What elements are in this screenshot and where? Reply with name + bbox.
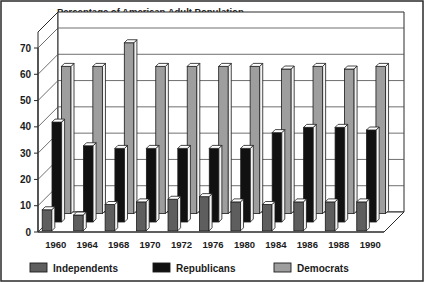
bar-front-face (262, 205, 272, 231)
bar-independents-1970[interactable] (137, 199, 150, 231)
x-axis-label-1976: 1976 (202, 239, 223, 250)
legend-item-democrats[interactable]: Democrats (274, 263, 349, 274)
bar-side-face (241, 199, 244, 231)
legend-swatch (30, 263, 47, 272)
x-axis-label-1968: 1968 (108, 239, 129, 250)
bar-front-face (168, 199, 178, 231)
y-axis-label: 20 (20, 174, 32, 185)
bar-side-face (282, 130, 285, 222)
x-axis-label-1990: 1990 (360, 239, 381, 250)
bar-independents-1980[interactable] (231, 199, 244, 231)
bar-side-face (197, 63, 200, 213)
x-axis-label-1964: 1964 (77, 239, 99, 250)
bar-independents-1976[interactable] (199, 194, 212, 231)
bar-front-face (294, 202, 304, 231)
bar-side-face (354, 66, 357, 214)
bar-front-face (325, 202, 335, 231)
bar-side-face (71, 63, 74, 213)
bar-front-face (199, 197, 209, 231)
bar-front-face (74, 215, 84, 231)
bar-side-face (52, 207, 55, 231)
bar-side-face (178, 196, 181, 231)
y-axis-label: 0 (25, 227, 31, 238)
bar-side-face (102, 63, 105, 213)
bar-side-face (187, 145, 190, 222)
bar-front-face (231, 202, 241, 231)
bar-front-face (357, 202, 367, 231)
bar-side-face (376, 127, 379, 222)
bar-side-face (303, 199, 306, 231)
bar-side-face (219, 145, 222, 222)
bar-side-face (125, 145, 128, 222)
x-axis-label-1972: 1972 (171, 239, 192, 250)
bar-side-face (345, 124, 348, 222)
legend-swatch (153, 263, 170, 272)
bar-side-face (260, 63, 263, 213)
bar-side-face (323, 63, 326, 213)
bar-independents-1990[interactable] (357, 199, 370, 231)
bar-side-face (93, 143, 96, 222)
bar-side-face (386, 63, 389, 213)
y-axis-label: 60 (20, 69, 32, 80)
bar-independents-1972[interactable] (168, 196, 181, 231)
bar-front-face (42, 210, 52, 231)
bar-side-face (366, 199, 369, 231)
bar-side-face (165, 63, 168, 213)
x-axis-label-1984: 1984 (265, 239, 287, 250)
bar-side-face (228, 63, 231, 213)
x-axis-label-1980: 1980 (234, 239, 255, 250)
bar-side-face (134, 40, 137, 214)
bar-side-face (115, 202, 118, 231)
y-axis-label: 50 (20, 95, 32, 106)
bar-side-face (250, 145, 253, 222)
bar-side-face (272, 202, 275, 231)
bar-independents-1984[interactable] (262, 202, 275, 231)
bar-republicans-1964[interactable] (83, 143, 96, 222)
bar-side-face (291, 66, 294, 214)
bar-side-face (313, 124, 316, 222)
legend-label: Republicans (176, 263, 236, 274)
legend-swatch (274, 263, 291, 272)
x-axis-label-1960: 1960 (45, 239, 66, 250)
x-axis-label-1970: 1970 (140, 239, 161, 250)
bar-side-face (335, 199, 338, 231)
legend-item-republicans[interactable]: Republicans (153, 263, 236, 274)
y-axis-label: 10 (20, 200, 32, 211)
y-axis-label: 70 (20, 43, 32, 54)
bar-front-face (83, 146, 93, 222)
chart-container: Percentage of American Adult Population0… (0, 0, 424, 282)
legend-label: Independents (53, 263, 118, 274)
y-axis-label: 30 (20, 148, 32, 159)
bar-side-face (146, 199, 149, 231)
bar-side-face (62, 119, 65, 222)
x-axis-label-1986: 1986 (297, 239, 318, 250)
legend-label: Democrats (297, 263, 349, 274)
bar-independents-1968[interactable] (105, 202, 118, 231)
bar-chart: Percentage of American Adult Population0… (0, 0, 424, 282)
y-axis-label: 40 (20, 121, 32, 132)
legend-item-independents[interactable]: Independents (30, 263, 118, 274)
bar-independents-1986[interactable] (294, 199, 307, 231)
bar-front-face (105, 205, 115, 231)
bar-independents-1960[interactable] (42, 207, 55, 231)
x-axis-label-1988: 1988 (328, 239, 349, 250)
bar-side-face (209, 194, 212, 231)
bar-side-face (156, 145, 159, 222)
bar-independents-1964[interactable] (74, 212, 87, 231)
bar-front-face (137, 202, 147, 231)
bar-independents-1988[interactable] (325, 199, 338, 231)
